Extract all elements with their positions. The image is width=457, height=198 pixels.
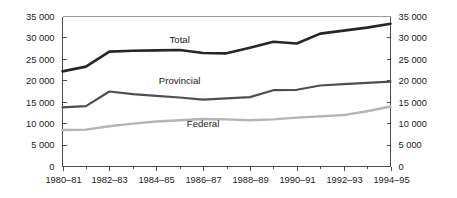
chart-canvas: 35 00030 00025 00020 00015 00010 0005 00… bbox=[0, 0, 457, 198]
right-y-tick-label: 30 000 bbox=[399, 33, 427, 43]
series-inline-labels: TotalProvincialFederal bbox=[159, 34, 219, 129]
left-y-tick-label: 5 000 bbox=[31, 140, 54, 150]
x-tick-label: 1980–81 bbox=[45, 175, 81, 185]
x-tick-label: 1992–93 bbox=[326, 175, 362, 185]
x-tick-label: 1990–91 bbox=[279, 175, 315, 185]
left-y-tick-label: 15 000 bbox=[26, 98, 54, 108]
series-line-total bbox=[63, 24, 391, 72]
series-line-provincial bbox=[63, 82, 391, 108]
right-axis-tick-labels: 35 00030 00025 00020 00015 00010 0005 00… bbox=[399, 12, 427, 172]
right-y-tick-label: 10 000 bbox=[399, 119, 427, 129]
left-y-tick-label: 20 000 bbox=[26, 76, 54, 86]
left-y-tick-label: 35 000 bbox=[26, 12, 54, 22]
right-y-tick-label: 0 bbox=[399, 162, 404, 172]
series-label-total: Total bbox=[170, 34, 190, 45]
series-label-provincial: Provincial bbox=[159, 75, 201, 86]
right-y-tick-label: 5 000 bbox=[399, 140, 422, 150]
left-y-tick-label: 25 000 bbox=[26, 55, 54, 65]
left-y-tick-label: 10 000 bbox=[26, 119, 54, 129]
x-tick-label: 1984–85 bbox=[138, 175, 174, 185]
left-y-tick-label: 30 000 bbox=[26, 33, 54, 43]
series-line-federal bbox=[63, 107, 391, 131]
right-y-tick-label: 25 000 bbox=[399, 55, 427, 65]
x-tick-label: 1994–95 bbox=[373, 175, 409, 185]
right-y-tick-label: 35 000 bbox=[399, 12, 427, 22]
x-axis-tick-marks bbox=[64, 167, 392, 172]
left-y-tick-label: 0 bbox=[49, 162, 54, 172]
x-tick-label: 1982–83 bbox=[91, 175, 127, 185]
series-label-federal: Federal bbox=[187, 118, 220, 129]
line-chart-figure: 35 00030 00025 00020 00015 00010 0005 00… bbox=[0, 0, 457, 198]
x-axis-tick-labels: 1980–811982–831984–851986–871988–891990–… bbox=[45, 175, 409, 185]
right-y-tick-label: 20 000 bbox=[399, 76, 427, 86]
data-series-lines bbox=[63, 24, 391, 130]
right-axis-tick-marks bbox=[387, 38, 391, 145]
x-tick-label: 1988–89 bbox=[232, 175, 268, 185]
right-y-tick-label: 15 000 bbox=[399, 98, 427, 108]
left-axis-tick-labels: 35 00030 00025 00020 00015 00010 0005 00… bbox=[26, 12, 54, 172]
x-tick-label: 1986–87 bbox=[185, 175, 221, 185]
